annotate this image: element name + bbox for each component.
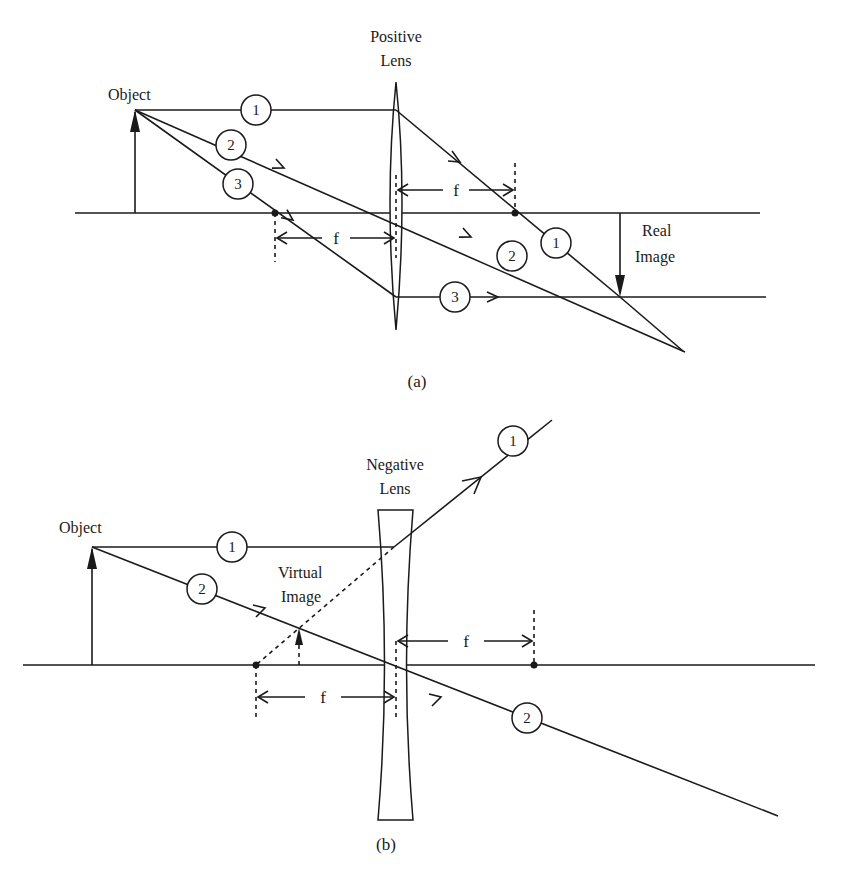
arrow-up-icon bbox=[87, 547, 97, 569]
lens-label-b-line2: Lens bbox=[379, 480, 410, 497]
svg-text:1: 1 bbox=[252, 102, 260, 118]
focal-label-a-left: f bbox=[333, 229, 339, 248]
image-label-b-line1: Virtual bbox=[278, 564, 323, 581]
focal-label-a-right: f bbox=[453, 181, 459, 200]
image-label-a-line1: Real bbox=[642, 222, 672, 239]
ray-marker-1-a-after: 1 bbox=[541, 228, 571, 258]
svg-text:2: 2 bbox=[227, 137, 235, 153]
lens-label-a-line1: Positive bbox=[370, 28, 422, 45]
lens-label-a-line2: Lens bbox=[380, 52, 411, 69]
ray-marker-2-b: 2 bbox=[187, 574, 217, 604]
ray-marker-2-a-after: 2 bbox=[497, 241, 527, 271]
focal-label-b-right: f bbox=[463, 632, 469, 651]
ray-marker-1-b-after: 1 bbox=[498, 426, 528, 456]
focal-label-b-left: f bbox=[320, 688, 326, 707]
lens-label-b-line1: Negative bbox=[366, 456, 424, 474]
svg-text:2: 2 bbox=[198, 581, 206, 597]
ray-marker-3-a: 3 bbox=[223, 169, 253, 199]
diagram-canvas: Positive Lens Object f bbox=[0, 0, 844, 884]
ray-marker-1-b: 1 bbox=[217, 532, 247, 562]
back-focal-point-b bbox=[531, 662, 538, 669]
svg-text:1: 1 bbox=[228, 539, 236, 555]
ray-marker-2-b-after: 2 bbox=[512, 703, 542, 733]
ray-3-a-incoming bbox=[135, 110, 396, 297]
ray-marker-3-a-after: 3 bbox=[440, 282, 470, 312]
positive-lens-shape bbox=[390, 82, 402, 330]
caption-a: (a) bbox=[408, 372, 427, 391]
object-label-a: Object bbox=[108, 86, 151, 104]
svg-text:1: 1 bbox=[509, 433, 517, 449]
figure-b-negative-lens: Negative Lens Object f f bbox=[23, 420, 815, 854]
arrow-right-icon bbox=[448, 151, 460, 162]
object-label-b: Object bbox=[59, 519, 102, 537]
svg-text:2: 2 bbox=[523, 710, 531, 726]
svg-text:3: 3 bbox=[451, 289, 459, 305]
arrow-right-icon bbox=[459, 228, 473, 242]
svg-text:3: 3 bbox=[234, 176, 242, 192]
figure-a-positive-lens: Positive Lens Object f bbox=[75, 28, 766, 391]
svg-text:1: 1 bbox=[552, 235, 560, 251]
ray-marker-2-a: 2 bbox=[216, 130, 246, 160]
image-label-b-line2: Image bbox=[281, 588, 321, 606]
ray-marker-1-a: 1 bbox=[241, 95, 271, 125]
ray-1-a-extension bbox=[620, 297, 683, 351]
image-label-a-line2: Image bbox=[635, 248, 675, 266]
lens-ray-diagram: Positive Lens Object f bbox=[0, 0, 844, 884]
svg-text:2: 2 bbox=[508, 248, 516, 264]
ray-1-b-virtual-extension bbox=[256, 547, 394, 665]
caption-b: (b) bbox=[376, 835, 396, 854]
arrow-right-icon bbox=[429, 694, 441, 706]
